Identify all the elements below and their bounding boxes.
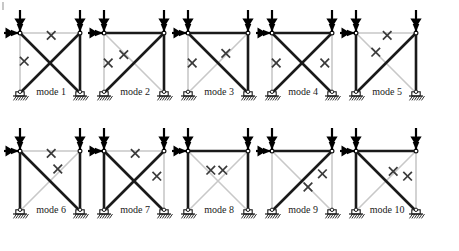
support-pin (102, 90, 105, 93)
vertical-load-arrow-left (182, 10, 193, 32)
mode-panel-10[interactable]: mode 10 (340, 128, 425, 218)
vertical-load-arrow-right (158, 128, 169, 150)
pinned-support-left (97, 90, 113, 100)
arrow-head (179, 148, 187, 155)
arrow-head (347, 30, 355, 37)
support-pin (18, 90, 21, 93)
mode-panel-5[interactable]: mode 5 (340, 10, 425, 100)
mode-panel-1[interactable]: mode 1 (4, 10, 89, 100)
vertical-load-arrow-left (350, 128, 361, 150)
vertical-load-arrow-right (242, 10, 253, 32)
horizontal-load-arrow-lateral (88, 145, 103, 156)
pinned-support-left (265, 90, 281, 100)
support-pin (414, 208, 417, 211)
arrow-head (353, 24, 360, 32)
failure-mark-9-1 (304, 183, 313, 192)
vertical-load-arrow-right (242, 128, 253, 150)
mode-panel-3[interactable]: mode 3 (172, 10, 257, 100)
failure-mark-2-1 (120, 50, 129, 59)
mode-label-5: mode 5 (372, 86, 402, 97)
vertical-load-arrow-right (410, 128, 421, 150)
vertical-load-arrow-right (74, 128, 85, 150)
arrow-head (263, 30, 271, 37)
support-pin (162, 208, 165, 211)
pinned-support-left (181, 208, 197, 218)
arrow-head (185, 142, 192, 150)
support-pin (354, 90, 357, 93)
support-pin (330, 90, 333, 93)
horizontal-load-arrow-lateral (340, 145, 355, 156)
mode-label-3: mode 3 (204, 86, 234, 97)
vertical-load-arrow-left (14, 128, 25, 150)
arrow-head (161, 24, 168, 32)
support-pin (354, 208, 357, 211)
horizontal-load-arrow-lateral (340, 27, 355, 38)
failure-mark-2-0 (104, 59, 113, 68)
mode-panel-8[interactable]: mode 8 (172, 128, 257, 218)
arrow-head (95, 30, 103, 37)
arrow-head (263, 148, 271, 155)
arrow-head (185, 24, 192, 32)
mode-panel-4[interactable]: mode 4 (256, 10, 341, 100)
arrow-head (329, 142, 336, 150)
pinned-support-left (349, 208, 365, 218)
arrow-head (347, 148, 355, 155)
horizontal-load-arrow-lateral (88, 27, 103, 38)
arrow-head (77, 24, 84, 32)
vertical-load-arrow-left (266, 10, 277, 32)
arrow-head (101, 24, 108, 32)
pinned-support-left (97, 208, 113, 218)
support-pin (186, 90, 189, 93)
failure-mark-4-0 (272, 59, 281, 68)
arrow-head (269, 24, 276, 32)
mode-label-9: mode 9 (288, 204, 318, 215)
support-pin (186, 208, 189, 211)
arrow-head (353, 142, 360, 150)
arrow-head (329, 24, 336, 32)
support-pin (78, 90, 81, 93)
support-pin (270, 208, 273, 211)
failure-mark-3-1 (222, 49, 231, 58)
support-pin (246, 208, 249, 211)
mode-label-8: mode 8 (204, 204, 234, 215)
arrow-head (11, 30, 19, 37)
arrow-head (269, 142, 276, 150)
mode-label-10: mode 10 (370, 204, 405, 215)
arrow-head (245, 142, 252, 150)
failure-mark-5-1 (372, 48, 381, 57)
mode-panel-7[interactable]: mode 7 (88, 128, 173, 218)
horizontal-load-arrow-lateral (172, 145, 187, 156)
pinned-support-right (73, 208, 89, 218)
vertical-load-arrow-right (326, 128, 337, 150)
pinned-support-right (241, 90, 257, 100)
mode-panel-9[interactable]: mode 9 (256, 128, 341, 218)
arrow-head (11, 148, 19, 155)
arrow-head (413, 24, 420, 32)
pinned-support-right (157, 90, 173, 100)
failure-mark-10-1 (403, 172, 412, 181)
arrow-head (77, 142, 84, 150)
pinned-support-left (349, 90, 365, 100)
support-pin (414, 90, 417, 93)
arrow-head (17, 142, 24, 150)
support-pin (246, 90, 249, 93)
horizontal-load-arrow-lateral (4, 145, 19, 156)
pinned-support-right (409, 90, 425, 100)
collapse-mode-svg: mode 1mode 2mode 3mode 4mode 5mode 6mode… (0, 0, 459, 251)
mode-label-1: mode 1 (36, 86, 66, 97)
support-pin (162, 90, 165, 93)
arrow-head (179, 30, 187, 37)
vertical-load-arrow-right (326, 10, 337, 32)
mode-panel-6[interactable]: mode 6 (4, 128, 89, 218)
horizontal-load-arrow-lateral (256, 145, 271, 156)
arrow-head (17, 24, 24, 32)
support-pin (270, 90, 273, 93)
pinned-support-right (73, 90, 89, 100)
mode-label-6: mode 6 (36, 204, 66, 215)
collapse-mode-figure: mode 1mode 2mode 3mode 4mode 5mode 6mode… (0, 0, 459, 251)
pinned-support-left (181, 90, 197, 100)
pinned-support-left (13, 208, 29, 218)
mode-panel-2[interactable]: mode 2 (88, 10, 173, 100)
failure-mark-8-1 (219, 166, 228, 175)
pinned-support-right (157, 208, 173, 218)
